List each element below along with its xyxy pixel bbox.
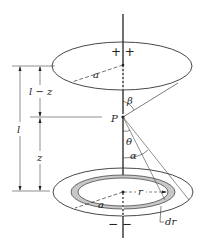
bottom-signs: − − <box>108 217 132 231</box>
dim-z-label: z <box>36 152 43 163</box>
theta-label: θ <box>126 136 132 147</box>
beta-label: β <box>126 95 133 106</box>
theta-arc <box>123 130 130 131</box>
dr-line <box>160 206 161 222</box>
dim-lz-label: l − z <box>29 86 53 97</box>
top-center-dot <box>122 64 125 67</box>
dim-l-label: l <box>17 124 20 135</box>
dim-l-arrow-top <box>19 66 22 71</box>
charged-disks-diagram: + + a β P l l − z z θ α a r dr <box>0 0 205 249</box>
dim-l-arrow-bottom <box>19 186 22 191</box>
bottom-radius-label: a <box>98 199 104 210</box>
top-radius-label: a <box>93 69 99 80</box>
dr-label: dr <box>165 216 177 227</box>
top-signs: + + <box>111 45 135 59</box>
point-p-label: P <box>110 113 118 124</box>
alpha-label: α <box>130 150 137 161</box>
